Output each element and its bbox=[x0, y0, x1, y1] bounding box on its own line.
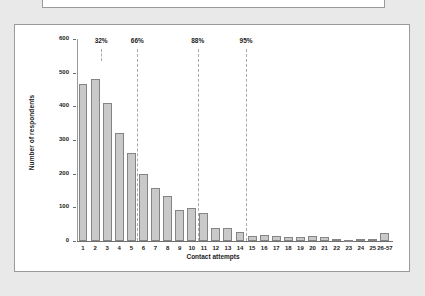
bar bbox=[236, 232, 245, 241]
bar bbox=[103, 103, 112, 241]
bar bbox=[260, 235, 269, 241]
bar bbox=[211, 228, 220, 241]
percent-marker-line bbox=[246, 49, 247, 241]
bar bbox=[223, 228, 232, 241]
x-tick-label: 26-57 bbox=[371, 245, 399, 251]
upper-cropped-panel bbox=[42, 0, 385, 8]
bar bbox=[139, 174, 148, 241]
y-tick-mark bbox=[73, 140, 76, 141]
y-tick-label: 400 bbox=[43, 102, 69, 108]
x-axis-title: Contact attempts bbox=[15, 253, 411, 260]
bar bbox=[356, 239, 365, 241]
bar bbox=[344, 240, 353, 242]
bar bbox=[79, 84, 88, 241]
y-tick-mark bbox=[73, 241, 76, 242]
y-tick-mark bbox=[73, 174, 76, 175]
bar bbox=[296, 237, 305, 241]
y-tick-mark bbox=[73, 106, 76, 107]
bar bbox=[248, 236, 257, 241]
percent-marker-label: 95% bbox=[240, 37, 253, 44]
plot-area: Number of respondents Contact attempts 0… bbox=[15, 25, 411, 273]
bar bbox=[151, 188, 160, 241]
chart-figure-panel: Number of respondents Contact attempts 0… bbox=[14, 24, 410, 272]
y-tick-label: 200 bbox=[43, 170, 69, 176]
bar bbox=[163, 196, 172, 241]
y-tick-label: 500 bbox=[43, 69, 69, 75]
bar bbox=[272, 236, 281, 241]
bar bbox=[91, 79, 100, 241]
y-tick-label: 100 bbox=[43, 203, 69, 209]
y-tick-mark bbox=[73, 207, 76, 208]
bar bbox=[308, 236, 317, 241]
y-tick-mark bbox=[73, 73, 76, 74]
y-tick-label: 300 bbox=[43, 136, 69, 142]
bar bbox=[199, 213, 208, 241]
bar bbox=[187, 208, 196, 241]
y-tick-label: 600 bbox=[43, 35, 69, 41]
y-tick-label: 0 bbox=[43, 237, 69, 243]
y-axis-title: Number of respondents bbox=[28, 73, 35, 193]
percent-marker-label: 66% bbox=[131, 37, 144, 44]
percent-marker-line bbox=[137, 49, 138, 241]
percent-marker-label: 88% bbox=[191, 37, 204, 44]
y-tick-mark bbox=[73, 39, 76, 40]
bar bbox=[175, 210, 184, 241]
bar bbox=[115, 133, 124, 241]
bar bbox=[127, 153, 136, 241]
percent-marker-label: 32% bbox=[95, 37, 108, 44]
percent-marker-line bbox=[101, 49, 102, 61]
bar bbox=[368, 239, 377, 241]
bar bbox=[332, 239, 341, 241]
percent-marker-line bbox=[198, 49, 199, 241]
bar bbox=[320, 237, 329, 241]
bar bbox=[380, 233, 389, 241]
bar bbox=[284, 237, 293, 241]
